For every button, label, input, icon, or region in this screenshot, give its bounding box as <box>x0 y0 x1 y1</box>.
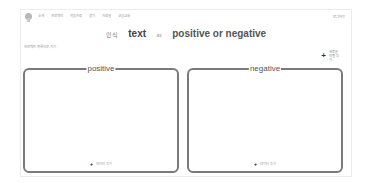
title-labels: positive or negative <box>172 28 266 39</box>
back-to-projects-link[interactable]: 프로젝트 목록으로 가기 <box>24 45 56 50</box>
plus-icon: + <box>90 160 94 168</box>
nav-item-resources[interactable]: 자료실 <box>102 13 111 19</box>
nav-item-about[interactable]: 소개 <box>38 13 44 19</box>
nav-item-coding[interactable]: 코딩교육 <box>118 13 130 19</box>
bucket-label: negative <box>249 64 281 74</box>
bucket-label: positive <box>86 64 115 74</box>
nav-menu: 소개 프로젝트 학습자료 묻기 자료실 코딩교육 <box>38 13 130 19</box>
page-container: 소개 프로젝트 학습자료 묻기 자료실 코딩교육 로그아웃 인식 text as… <box>20 9 352 177</box>
title-separator: as <box>157 32 162 38</box>
logo-icon[interactable] <box>25 13 32 20</box>
page-title: 인식 text as positive or negative <box>21 24 351 43</box>
nav-item-help[interactable]: 묻기 <box>89 13 95 19</box>
add-example-label: 데이터 추가 <box>96 162 112 167</box>
logout-link[interactable]: 로그아웃 <box>333 14 345 20</box>
add-label-text: 새로운 라벨 추가 <box>329 50 339 62</box>
bucket-positive: positive + 데이터 추가 <box>23 68 179 173</box>
add-example-button[interactable]: + 데이터 추가 <box>25 160 177 168</box>
add-example-button[interactable]: + 데이터 추가 <box>189 160 341 168</box>
title-prefix: 인식 <box>106 32 118 38</box>
add-label-button[interactable]: + 새로운 라벨 추가 <box>321 50 339 62</box>
nav-item-worksheets[interactable]: 학습자료 <box>70 13 82 19</box>
top-nav: 소개 프로젝트 학습자료 묻기 자료실 코딩교육 로그아웃 <box>21 10 351 23</box>
add-example-label: 데이터 추가 <box>260 162 276 167</box>
nav-item-projects[interactable]: 프로젝트 <box>51 13 63 19</box>
bucket-negative: negative + 데이터 추가 <box>187 68 343 173</box>
plus-icon: + <box>254 160 258 168</box>
plus-icon: + <box>321 52 326 60</box>
title-type: text <box>128 28 146 39</box>
